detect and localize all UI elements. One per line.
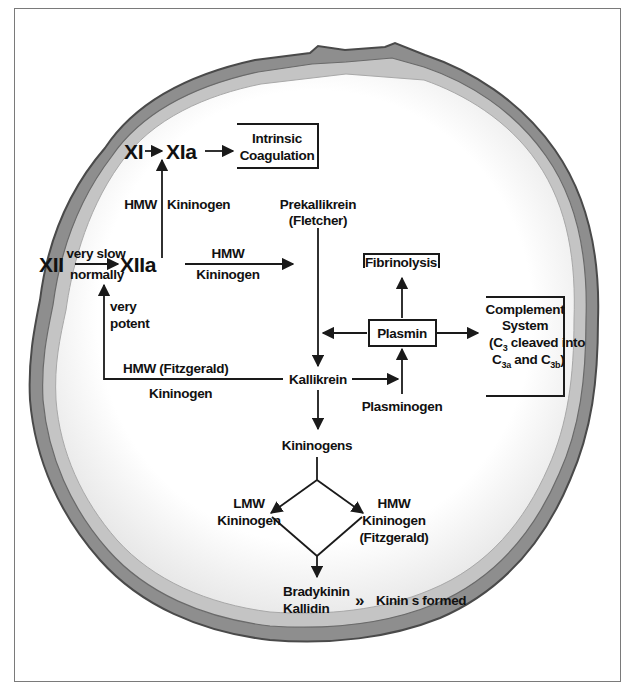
node-hmw-line3: (Fitzgerald) [359,530,428,545]
edge-label-normally: normally [70,267,125,282]
node-kallikrein: Kallikrein [289,372,347,387]
node-plasminogen: Plasminogen [362,399,443,414]
node-lmw-line1: LMW [233,496,265,511]
edge-label-hmw-fitzgerald: HMW (Fitzgerald) [123,361,228,376]
node-complement-line1: Complement [486,302,566,317]
node-xia: XIa [166,140,197,163]
edge-label-hmw: HMW [124,197,157,212]
edge-label-very: very [110,299,137,314]
edge-label-potent: potent [110,316,150,331]
edge-label-kininogen: Kininogen [167,197,230,212]
node-prekallikrein-line1: Prekallikrein [280,197,356,212]
kinin-pathway-diagram: XI XIa Intrinsic Coagulation XII XIIa Pr… [0,0,632,693]
node-xi: XI [124,140,143,163]
edge-label-kininogen-feedback: Kininogen [149,386,212,401]
edge-label-kininogen-bottom: Kininogen [196,267,259,282]
node-xiia: XIIa [120,253,157,276]
double-chevron-icon: » [355,591,364,610]
edge-label-very-slow: very slow [67,246,127,261]
node-hmw-line2: Kininogen [362,513,425,528]
node-fibrinolysis: Fibrinolysis [365,255,437,270]
node-plasmin: Plasmin [377,326,427,341]
node-intrinsic-line2: Coagulation [240,148,315,163]
node-intrinsic-line1: Intrinsic [252,131,303,146]
node-lmw-line2: Kininogen [217,513,280,528]
node-complement-line2: System [502,318,549,333]
node-kinins-formed: Kinin s formed [376,593,466,608]
node-xii: XII [39,253,64,276]
node-prekallikrein-line2: (Fletcher) [289,213,348,228]
edge-label-hmw-top: HMW [212,246,245,261]
node-bradykinin: Bradykinin [283,584,350,599]
node-kininogens: Kininogens [282,438,353,453]
node-kallidin: Kallidin [283,601,329,616]
node-hmw-line1: HMW [378,496,411,511]
